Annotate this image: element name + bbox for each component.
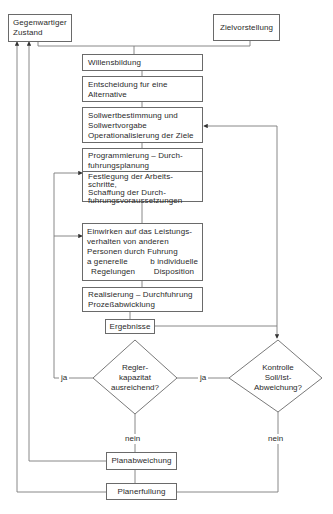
control-line-1: Kontrolle — [246, 363, 310, 373]
controller-capacity-line-3: ausreichend? — [105, 383, 165, 393]
control-no-label: nein — [266, 434, 285, 444]
plan-fulfillment-box: Planerfullung — [106, 483, 177, 500]
current-state-line-1: Gegenwartiger — [13, 18, 67, 28]
decision-line-2: Alternative — [88, 90, 197, 100]
control-line-3: Abweichung? — [246, 383, 310, 393]
control-decision: Kontrolle Soll/Ist- Abweichung? — [246, 363, 310, 393]
influence-option-a: a generelle — [87, 257, 128, 267]
current-state-line-2: Zustand — [13, 28, 67, 38]
decision-box: Entscheidung fur eine Alternative — [82, 76, 203, 102]
influence-options-row: a generelle b individuelle — [87, 257, 198, 267]
influence-options-sub-row: Regelungen Disposition — [87, 267, 198, 277]
influence-box: Einwirken auf das Leistungs- verhalten v… — [82, 223, 203, 281]
target-vision-label: Zielvorstellung — [217, 23, 276, 33]
setpoint-line-1: Sollwertbestimmung und — [88, 111, 197, 121]
will-formation-box: Willensbildung — [82, 54, 203, 71]
controller-capacity-line-2: kapazitat — [105, 373, 165, 383]
setpoint-box: Sollwertbestimmung und Sollwertvorgabe O… — [82, 107, 203, 143]
influence-line-3: Personen durch Fuhrung — [87, 247, 198, 257]
setpoint-line-3: Operationalisierung der Ziele — [88, 131, 197, 141]
programming-body-4: fuhrungsvoraussetzungen — [88, 197, 197, 205]
programming-box: Programmierung – Durch- fuhrungsplanung … — [82, 148, 203, 202]
setpoint-line-2: Sollwertvorgabe — [88, 121, 197, 131]
programming-header-1: Programmierung – Durch- — [88, 151, 197, 161]
control-yes-label: ja — [198, 373, 208, 383]
plan-fulfillment-label: Planerfullung — [109, 487, 174, 497]
control-line-2: Soll/Ist- — [246, 373, 310, 383]
will-formation-label: Willensbildung — [88, 58, 197, 68]
results-box: Ergebnisse — [105, 319, 155, 334]
controller-capacity-decision: Regler- kapazitat ausreichend? — [105, 363, 165, 393]
plan-deviation-box: Planabweichung — [106, 452, 177, 470]
influence-option-b: b individuelle — [150, 257, 198, 267]
influence-option-b-sub: Disposition — [154, 267, 194, 277]
decision-line-1: Entscheidung fur eine — [88, 80, 197, 90]
influence-line-2: verhalten von anderen — [87, 237, 198, 247]
realization-box: Realisierung – Durchfuhrung Prozeßabwick… — [82, 287, 203, 312]
regler-yes-label: ja — [59, 373, 69, 383]
programming-header-2: fuhrungsplanung — [88, 161, 197, 171]
realization-line-2: Prozeßabwicklung — [88, 300, 197, 310]
plan-deviation-label: Planabweichung — [109, 456, 174, 466]
influence-line-1: Einwirken auf das Leistungs- — [87, 227, 198, 237]
controller-capacity-line-1: Regler- — [105, 363, 165, 373]
regler-no-label: nein — [123, 434, 142, 444]
realization-line-1: Realisierung – Durchfuhrung — [88, 290, 197, 300]
influence-option-a-sub: Regelungen — [91, 267, 135, 277]
target-vision-box: Zielvorstellung — [213, 14, 280, 41]
current-state-box: Gegenwartiger Zustand — [8, 14, 72, 42]
results-label: Ergebnisse — [108, 322, 152, 332]
